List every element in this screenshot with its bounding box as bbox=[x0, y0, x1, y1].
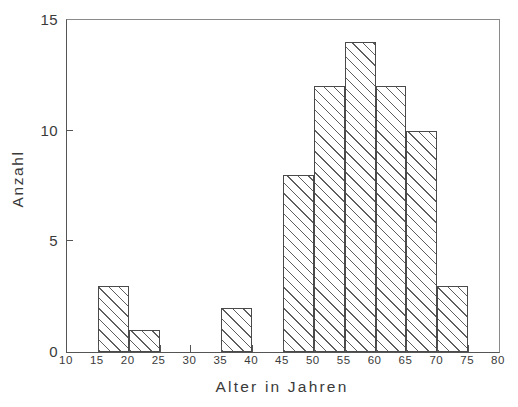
x-tick-mark bbox=[376, 345, 377, 352]
x-tick-label: 50 bbox=[306, 354, 320, 366]
y-tick-label: 15 bbox=[41, 11, 59, 28]
bar bbox=[406, 131, 437, 352]
y-tick-mark bbox=[66, 240, 73, 241]
bar bbox=[345, 42, 376, 352]
x-tick-mark bbox=[283, 345, 284, 352]
x-axis: 101520253035404550556065707580 bbox=[66, 354, 498, 372]
y-tick-mark bbox=[66, 130, 73, 131]
x-tick-mark bbox=[406, 345, 407, 352]
x-tick-label: 25 bbox=[152, 354, 166, 366]
x-tick-label: 55 bbox=[337, 354, 351, 366]
plot-area bbox=[66, 19, 500, 353]
x-tick-mark bbox=[98, 345, 99, 352]
x-tick-label: 65 bbox=[399, 354, 413, 366]
bar bbox=[129, 330, 160, 352]
bar bbox=[221, 308, 252, 352]
x-tick-mark bbox=[129, 345, 130, 352]
x-tick-label: 75 bbox=[460, 354, 474, 366]
x-tick-label: 10 bbox=[59, 354, 73, 366]
x-tick-mark bbox=[221, 345, 222, 352]
y-axis-title: Anzahl bbox=[9, 129, 27, 229]
histogram-figure: 051015 Anzahl 10152025303540455055606570… bbox=[0, 0, 518, 407]
x-tick-label: 35 bbox=[213, 354, 227, 366]
x-tick-mark bbox=[160, 345, 161, 352]
x-tick-label: 15 bbox=[90, 354, 104, 366]
bar-series bbox=[67, 20, 499, 352]
x-tick-label: 30 bbox=[183, 354, 197, 366]
bar bbox=[98, 286, 129, 352]
bar bbox=[314, 86, 345, 352]
x-tick-mark bbox=[252, 345, 253, 352]
x-tick-label: 20 bbox=[121, 354, 135, 366]
x-tick-label: 45 bbox=[275, 354, 289, 366]
x-tick-label: 70 bbox=[429, 354, 443, 366]
y-tick-label: 5 bbox=[49, 232, 58, 249]
x-tick-mark bbox=[190, 345, 191, 352]
y-tick-label: 0 bbox=[49, 343, 58, 360]
y-tick-label: 10 bbox=[41, 121, 59, 138]
bar bbox=[376, 86, 407, 352]
x-tick-label: 40 bbox=[244, 354, 258, 366]
x-tick-label: 80 bbox=[491, 354, 505, 366]
x-axis-title: Alter in Jahren bbox=[66, 378, 498, 396]
bar bbox=[437, 286, 468, 352]
x-tick-mark bbox=[468, 345, 469, 352]
x-tick-mark bbox=[314, 345, 315, 352]
x-tick-mark bbox=[345, 345, 346, 352]
bar bbox=[283, 175, 314, 352]
x-tick-mark bbox=[437, 345, 438, 352]
x-tick-label: 60 bbox=[368, 354, 382, 366]
